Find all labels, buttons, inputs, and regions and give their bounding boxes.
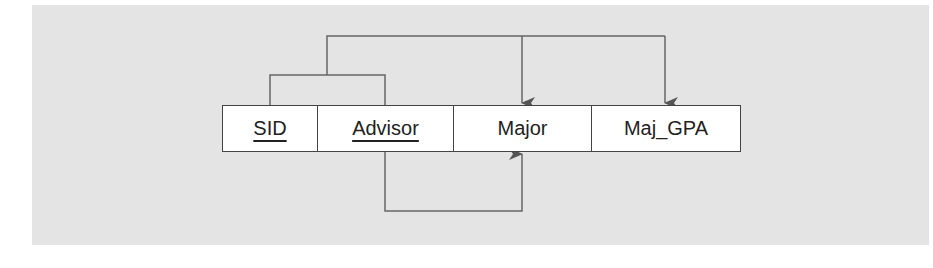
attribute-advisor: Advisor bbox=[318, 106, 454, 151]
attribute-sid: SID bbox=[223, 106, 318, 151]
attribute-maj-gpa: Maj_GPA bbox=[592, 106, 740, 151]
composite-key-bracket bbox=[270, 75, 385, 105]
relation-table: SID Advisor Major Maj_GPA bbox=[222, 105, 741, 152]
attribute-major: Major bbox=[454, 106, 592, 151]
fd-key-to-major-line bbox=[327, 36, 665, 75]
fd-advisor-to-major-line bbox=[385, 152, 522, 211]
